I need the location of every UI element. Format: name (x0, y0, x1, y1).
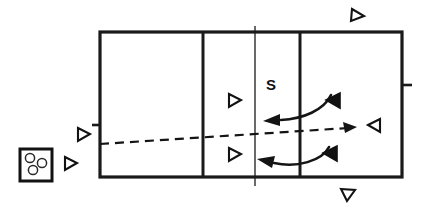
lower-transition-arrowhead (257, 156, 275, 168)
player-marker-bottom-right-outside[interactable] (341, 189, 355, 201)
diagram-canvas: S (0, 0, 426, 214)
ball-cart-ball-1 (25, 153, 34, 162)
player-marker-blocker-upper[interactable] (326, 93, 340, 108)
player-marker-top-right-outside[interactable] (351, 9, 364, 21)
court-boundary (100, 32, 402, 177)
player-marker-outside-left-upper[interactable] (78, 128, 90, 141)
setter-position-label: S (266, 76, 276, 93)
player-marker-blocker-lower[interactable] (323, 146, 337, 161)
upper-transition-arrowhead (263, 114, 280, 126)
volleyball-diagram-svg: S (0, 0, 426, 214)
player-marker-court-upper[interactable] (229, 94, 241, 107)
player-marker-right-open[interactable] (368, 119, 380, 132)
upper-transition-arc (281, 95, 331, 120)
ball-flight-arrowhead (343, 122, 357, 133)
ball-flight-path (100, 128, 348, 144)
ball-cart-box[interactable] (20, 149, 52, 181)
ball-cart-ball-3 (28, 165, 37, 174)
ball-cart-ball-2 (37, 158, 46, 167)
player-marker-outside-left-lower[interactable] (65, 157, 77, 170)
player-marker-court-lower[interactable] (229, 148, 241, 161)
